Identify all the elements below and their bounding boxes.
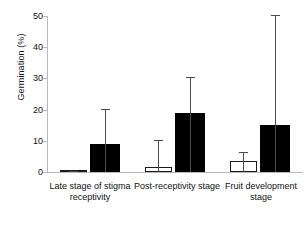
errorbar-solid-group2 [175,78,205,172]
bar-group-post-receptivity-stage [133,16,218,172]
x-category-label-1: Late stage of stigma receptivity [42,181,138,203]
errorbar-solid-group1 [90,110,120,172]
x-category-label-2: Post-receptivity stage [129,181,225,192]
errorbar-open-group1 [60,171,87,172]
y-tick-label-0: 0 [21,168,43,177]
bar-group-late-stage-of-stigma-receptivity [48,16,133,172]
germination-bar-chart: Germination (%) 50 40 30 20 10 0 [0,0,307,226]
x-category-label-3-line1: Fruit development [216,181,306,192]
plot-area [48,16,303,172]
y-tick-label-30: 30 [21,74,43,83]
y-tick-label-50: 50 [21,12,43,21]
y-tick-label-10: 10 [21,137,43,146]
errorbar-solid-group3 [260,16,290,172]
bar-group-fruit-development-stage [218,16,303,172]
errorbar-open-group2 [145,141,172,172]
x-category-label-3: Fruit development stage [216,181,306,203]
errorbar-open-group3 [230,153,257,172]
y-tick-label-20: 20 [21,106,43,115]
x-category-label-2-line1: Post-receptivity stage [129,181,225,192]
x-axis-line [47,172,303,173]
x-category-label-1-line2: receptivity [42,192,138,203]
x-category-label-1-line1: Late stage of stigma [42,181,138,192]
x-category-label-3-line2: stage [216,192,306,203]
y-tick-label-40: 40 [21,43,43,52]
